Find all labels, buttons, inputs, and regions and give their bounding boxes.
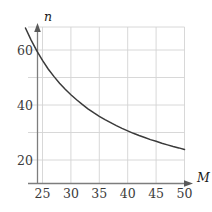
- chart-figure: 60 40 20 25 30 35 40 45 50 n M: [0, 0, 212, 212]
- x-tick-label-45: 45: [148, 186, 164, 201]
- x-tick-label-25: 25: [35, 186, 51, 201]
- gridlines: [28, 27, 185, 184]
- y-tick-label-60: 60: [17, 43, 33, 58]
- y-tick-label-40: 40: [17, 98, 33, 113]
- x-axis-label: M: [196, 170, 211, 185]
- y-axis-arrow-icon: [34, 23, 41, 32]
- y-axis-label: n: [44, 9, 52, 24]
- x-tick-label-35: 35: [91, 186, 107, 201]
- x-tick-label-50: 50: [177, 186, 193, 201]
- x-tick-labels: 25 30 35 40 45 50: [35, 186, 193, 201]
- y-tick-label-20: 20: [17, 153, 33, 168]
- curve-n-vs-m: [25, 28, 184, 150]
- data-series-group: [25, 28, 184, 150]
- x-tick-label-30: 30: [63, 186, 79, 201]
- line-chart: 60 40 20 25 30 35 40 45 50 n M: [0, 0, 212, 212]
- y-tick-labels: 60 40 20: [17, 43, 33, 168]
- x-tick-label-40: 40: [120, 186, 136, 201]
- horizontal-gridlines: [28, 27, 185, 160]
